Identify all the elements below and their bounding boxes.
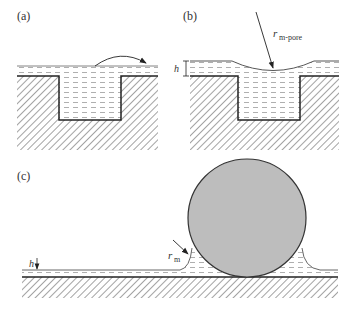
radius-label: r bbox=[273, 27, 278, 39]
panel-a-label: (a) bbox=[17, 9, 30, 23]
meniscus-radius-arrow-icon bbox=[173, 240, 188, 254]
flow-arrow-icon bbox=[95, 56, 146, 66]
radius-subscript: m-pore bbox=[279, 33, 303, 42]
meniscus-radius-subscript: m bbox=[174, 255, 181, 264]
panel-a: (a) bbox=[17, 9, 158, 150]
thickness-label: h bbox=[174, 63, 179, 74]
panel-b: (b) r m-pore h bbox=[174, 9, 339, 150]
panel-b-label: (b) bbox=[183, 9, 197, 23]
panel-c-label: (c) bbox=[17, 169, 30, 183]
sphere-particle bbox=[188, 159, 306, 277]
radius-arrow-icon bbox=[256, 12, 273, 68]
capillary-diagram: (a) (b) r m-pore h (c) r bbox=[0, 0, 344, 312]
panel-c: (c) r m h bbox=[17, 159, 338, 298]
meniscus-radius-label: r bbox=[168, 249, 173, 261]
flat-substrate bbox=[22, 277, 338, 298]
thickness-label: h bbox=[29, 258, 34, 269]
